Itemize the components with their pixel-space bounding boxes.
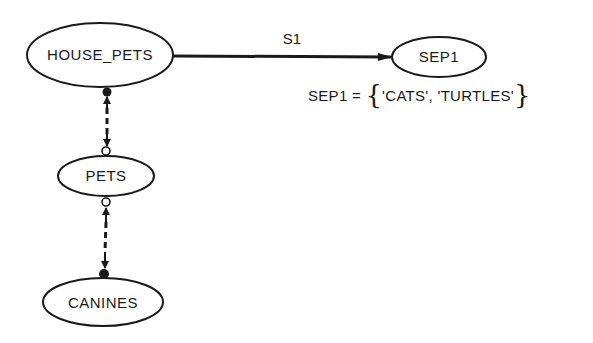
- sep1-definition-text: SEP1 = {'CATS', 'TURTLES'}: [308, 80, 531, 110]
- brace-close: }: [514, 80, 531, 110]
- hollow-circle-icon: [102, 198, 110, 206]
- edge-house-pets-pets[interactable]: [102, 88, 112, 156]
- diagram-canvas: HOUSE_PETS S1 SEP1 SEP1 = {'CATS', 'TURT…: [0, 0, 593, 343]
- edge-label-s1: S1: [283, 30, 301, 47]
- definition-values: 'CATS', 'TURTLES': [382, 87, 514, 104]
- node-house-pets[interactable]: HOUSE_PETS: [27, 23, 173, 87]
- filled-dot-icon: [103, 88, 112, 97]
- brace-open: {: [366, 80, 383, 110]
- definition-lhs: SEP1 =: [308, 87, 366, 104]
- edge-pets-canines[interactable]: [99, 198, 110, 279]
- node-sep1[interactable]: SEP1: [392, 37, 486, 77]
- node-label: HOUSE_PETS: [47, 46, 153, 63]
- node-label: SEP1: [419, 48, 459, 65]
- edge-s1[interactable]: S1: [173, 30, 391, 57]
- node-pets[interactable]: PETS: [58, 156, 154, 196]
- node-label: CANINES: [68, 294, 138, 311]
- node-canines[interactable]: CANINES: [43, 278, 163, 326]
- hollow-circle-icon: [102, 147, 110, 155]
- node-label: PETS: [85, 167, 126, 184]
- sep1-definition: SEP1 = {'CATS', 'TURTLES'}: [308, 80, 531, 110]
